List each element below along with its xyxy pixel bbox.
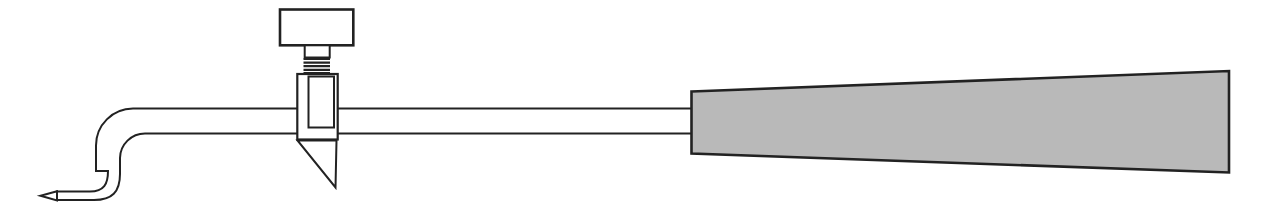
valve-plug-insert [309, 77, 335, 128]
blowpipe-diagram: Blowpipe with regulating valve Black-and… [0, 0, 1263, 208]
valve-knob [280, 10, 353, 46]
valve-cone-spike [298, 141, 337, 188]
stem-tube-and-curved-neck [57, 109, 700, 201]
jet-tip-cone [41, 191, 58, 200]
diagram-canvas: Blowpipe with regulating valve Black-and… [0, 0, 1263, 208]
valve-spindle-neck [305, 45, 330, 57]
blowpipe-drawing: Blowpipe with regulating valve [0, 0, 1263, 208]
valve-threads [304, 59, 331, 73]
mouthpiece-handle [692, 71, 1230, 173]
